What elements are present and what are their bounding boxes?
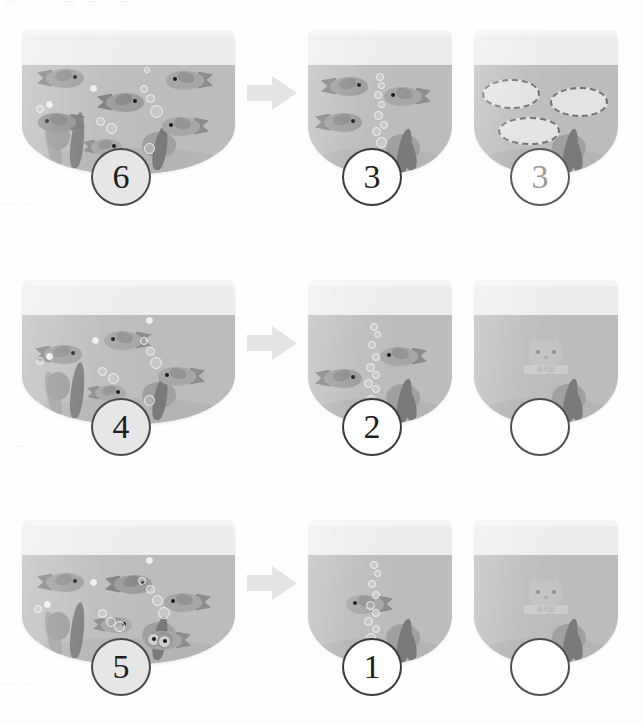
bubble	[36, 105, 44, 113]
bubble	[366, 601, 375, 610]
bubble	[44, 601, 51, 608]
bubble	[144, 143, 155, 154]
bubble	[378, 82, 385, 89]
fish	[106, 575, 152, 594]
bubble	[92, 337, 99, 344]
bubble	[372, 385, 380, 393]
bubble	[98, 609, 107, 618]
fish-eye	[351, 375, 356, 380]
top-crop-artifact-text: — · —— —	[4, 0, 643, 5]
row-2-difference-count-badge[interactable]	[510, 398, 570, 456]
bubble	[106, 123, 117, 134]
bubble	[96, 117, 105, 126]
bubble	[372, 591, 380, 599]
tank-rim	[474, 280, 618, 286]
arrow-right-icon	[247, 76, 297, 110]
tank-rim	[22, 280, 235, 286]
missing-fish-outline	[498, 117, 560, 145]
tank-rim	[474, 30, 618, 36]
bubble	[140, 337, 148, 345]
arrow-head	[272, 76, 297, 110]
fish	[38, 573, 84, 592]
arrow-head	[272, 326, 297, 360]
fish	[158, 367, 204, 386]
row-2-start-count-badge[interactable]: 4	[91, 398, 151, 456]
bubble	[374, 111, 383, 120]
bubble	[36, 357, 44, 365]
row-3-difference-count-badge[interactable]	[510, 638, 570, 696]
bubble	[368, 580, 376, 588]
cat-nose	[544, 356, 548, 359]
cat-face-watermark-icon: 새키트	[524, 337, 568, 379]
fish	[164, 593, 210, 612]
bubble	[144, 67, 150, 73]
fish-eye	[111, 337, 116, 342]
bubble	[366, 363, 375, 372]
row-2-result-count-badge[interactable]: 2	[342, 398, 402, 456]
bubble	[372, 625, 380, 633]
tank-rim	[308, 30, 452, 36]
bubble	[372, 127, 381, 136]
fish-eye	[169, 123, 174, 128]
row-1-result-count-badge[interactable]: 3	[342, 148, 402, 206]
fish-eye	[73, 75, 78, 80]
bubble	[368, 341, 376, 349]
row-3-start-count-badge[interactable]: 5	[91, 638, 151, 696]
bubble	[140, 85, 148, 93]
fish-eye	[133, 99, 138, 104]
plant-blob	[46, 372, 70, 400]
missing-fish-outline	[482, 79, 540, 109]
bubble	[370, 561, 378, 569]
arrow-shaft	[247, 85, 275, 101]
cat-face-watermark-icon: 새키트	[524, 577, 568, 619]
bubble	[158, 607, 170, 619]
watermark-caption: 새키트	[524, 365, 568, 374]
bubble	[146, 347, 155, 356]
fish-eye	[116, 390, 120, 394]
arrow-right-icon	[247, 566, 297, 600]
fish-eye	[171, 599, 176, 604]
cat-eye-right	[552, 350, 556, 354]
tank-rim	[308, 280, 452, 286]
fish-eye	[73, 579, 78, 584]
row-1-start-count-badge[interactable]: 6	[91, 148, 151, 206]
row-1-difference-count-badge[interactable]: 3	[510, 148, 570, 206]
cat-head	[529, 581, 563, 607]
bubble	[146, 585, 155, 594]
fish-eye	[353, 601, 358, 606]
fish-pupil	[163, 639, 167, 643]
fish-eye	[112, 144, 116, 148]
fish	[38, 113, 84, 132]
arrow-right-icon	[247, 326, 297, 360]
tank-rim	[22, 520, 235, 526]
bubble	[376, 137, 387, 148]
watermark-caption: 새키트	[524, 605, 568, 614]
fish	[316, 113, 362, 132]
tank-rim	[474, 520, 618, 526]
bubble	[364, 617, 373, 626]
bubble	[374, 331, 381, 338]
fish	[384, 87, 430, 106]
bubble	[380, 121, 388, 129]
problem-row-1: 6	[0, 6, 643, 238]
bubble	[46, 101, 53, 108]
fish-eye	[173, 77, 178, 82]
row-3-result-count-badge[interactable]: 1	[342, 638, 402, 696]
bubble	[144, 395, 155, 406]
arrow-head	[272, 566, 297, 600]
fish-with-goggles	[144, 631, 190, 650]
missing-fish-outline	[550, 87, 608, 117]
cat-eye-left	[536, 350, 540, 354]
bubble	[374, 91, 382, 99]
bubble	[138, 577, 146, 585]
bubble	[90, 85, 97, 92]
fish	[162, 117, 208, 136]
fish	[98, 93, 144, 112]
fish	[166, 71, 212, 90]
tank-rim	[308, 520, 452, 526]
tank-rim	[22, 30, 235, 36]
fish-eye	[351, 119, 356, 124]
bubble	[374, 570, 381, 577]
fish	[316, 369, 362, 388]
bubble	[108, 373, 119, 384]
